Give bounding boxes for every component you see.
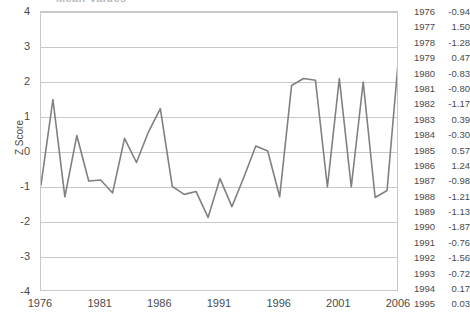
table-row: 1992-1.56 bbox=[414, 250, 470, 265]
chart-container: Mean Values Z Score 43210-1-2-3-4 197619… bbox=[0, 0, 470, 332]
table-row: 1982-1.17 bbox=[414, 96, 470, 111]
table-row: 1988-1.21 bbox=[414, 189, 470, 204]
table-cell-year: 1986 bbox=[414, 158, 435, 173]
table-cell-value: 0.57 bbox=[452, 143, 470, 158]
table-row: 1987-0.98 bbox=[414, 173, 470, 188]
table-cell-year: 1977 bbox=[414, 19, 435, 34]
table-row: 19771.50 bbox=[414, 19, 470, 34]
table-cell-value: 1.50 bbox=[452, 19, 470, 34]
table-cell-year: 1989 bbox=[414, 204, 435, 219]
gridlines bbox=[41, 13, 398, 292]
table-cell-value: -0.30 bbox=[448, 127, 470, 142]
table-cell-year: 1984 bbox=[414, 127, 435, 142]
table-cell-year: 1978 bbox=[414, 35, 435, 50]
table-row: 19950.03 bbox=[414, 296, 470, 311]
table-cell-value: 0.03 bbox=[452, 296, 470, 311]
table-cell-value: 0.39 bbox=[452, 112, 470, 127]
x-tick-label: 1996 bbox=[256, 297, 302, 309]
table-cell-value: -1.56 bbox=[448, 250, 470, 265]
table-cell-value: -0.80 bbox=[448, 81, 470, 96]
table-cell-year: 1979 bbox=[414, 50, 435, 65]
x-tick-label: 1976 bbox=[17, 297, 63, 309]
table-cell-year: 1991 bbox=[414, 235, 435, 250]
table-cell-year: 1993 bbox=[414, 266, 435, 281]
table-cell-year: 1992 bbox=[414, 250, 435, 265]
table-cell-year: 1988 bbox=[414, 189, 435, 204]
plot-svg bbox=[41, 12, 398, 291]
x-tick-label: 1991 bbox=[196, 297, 242, 309]
table-cell-year: 1982 bbox=[414, 96, 435, 111]
table-row: 1976-0.94 bbox=[414, 4, 470, 19]
table-row: 1978-1.28 bbox=[414, 35, 470, 50]
y-tick-label: 1 bbox=[4, 111, 30, 122]
table-row: 1993-0.72 bbox=[414, 266, 470, 281]
table-cell-year: 1995 bbox=[414, 296, 435, 311]
y-tick-label: -3 bbox=[4, 251, 30, 262]
table-cell-value: 0.47 bbox=[452, 50, 470, 65]
y-tick-label: -2 bbox=[4, 216, 30, 227]
table-cell-value: -1.87 bbox=[448, 219, 470, 234]
y-tick-label: -4 bbox=[4, 286, 30, 297]
table-row: 1991-0.76 bbox=[414, 235, 470, 250]
y-tick-label: 3 bbox=[4, 41, 30, 52]
table-row: 19861.24 bbox=[414, 158, 470, 173]
table-row: 19830.39 bbox=[414, 112, 470, 127]
table-row: 1990-1.87 bbox=[414, 219, 470, 234]
table-cell-value: -0.83 bbox=[448, 66, 470, 81]
plot-area bbox=[40, 11, 398, 291]
table-row: 1981-0.80 bbox=[414, 81, 470, 96]
y-tick-label: -1 bbox=[4, 181, 30, 192]
chart-title: Mean Values bbox=[56, 0, 126, 4]
table-cell-year: 1994 bbox=[414, 281, 435, 296]
table-row: 19940.17 bbox=[414, 281, 470, 296]
table-cell-year: 1985 bbox=[414, 143, 435, 158]
table-cell-year: 1976 bbox=[414, 4, 435, 19]
y-tick-label: 4 bbox=[4, 6, 30, 17]
table-cell-value: -1.28 bbox=[448, 35, 470, 50]
table-cell-year: 1983 bbox=[414, 112, 435, 127]
table-cell-value: 1.24 bbox=[452, 158, 470, 173]
table-cell-value: -1.13 bbox=[448, 204, 470, 219]
table-cell-value: -1.21 bbox=[448, 189, 470, 204]
y-tick-label: 2 bbox=[4, 76, 30, 87]
x-tick-label: 1986 bbox=[136, 297, 182, 309]
table-row: 1989-1.13 bbox=[414, 204, 470, 219]
x-tick-label: 2001 bbox=[315, 297, 361, 309]
table-cell-value: -0.94 bbox=[448, 4, 470, 19]
data-value-table: 1976-0.9419771.501978-1.2819790.471980-0… bbox=[414, 4, 470, 312]
table-cell-year: 1980 bbox=[414, 66, 435, 81]
table-cell-year: 1981 bbox=[414, 81, 435, 96]
table-row: 1984-0.30 bbox=[414, 127, 470, 142]
table-row: 1980-0.83 bbox=[414, 66, 470, 81]
table-row: 19850.57 bbox=[414, 143, 470, 158]
x-tick-label: 1981 bbox=[77, 297, 123, 309]
table-row: 19790.47 bbox=[414, 50, 470, 65]
table-cell-value: -0.76 bbox=[448, 235, 470, 250]
table-cell-year: 1990 bbox=[414, 219, 435, 234]
table-cell-value: -0.98 bbox=[448, 173, 470, 188]
z-score-line-series bbox=[41, 52, 398, 217]
table-cell-value: 0.17 bbox=[452, 281, 470, 296]
table-cell-value: -1.17 bbox=[448, 96, 470, 111]
table-cell-value: -0.72 bbox=[448, 266, 470, 281]
table-cell-year: 1987 bbox=[414, 173, 435, 188]
y-tick-label: 0 bbox=[4, 146, 30, 157]
